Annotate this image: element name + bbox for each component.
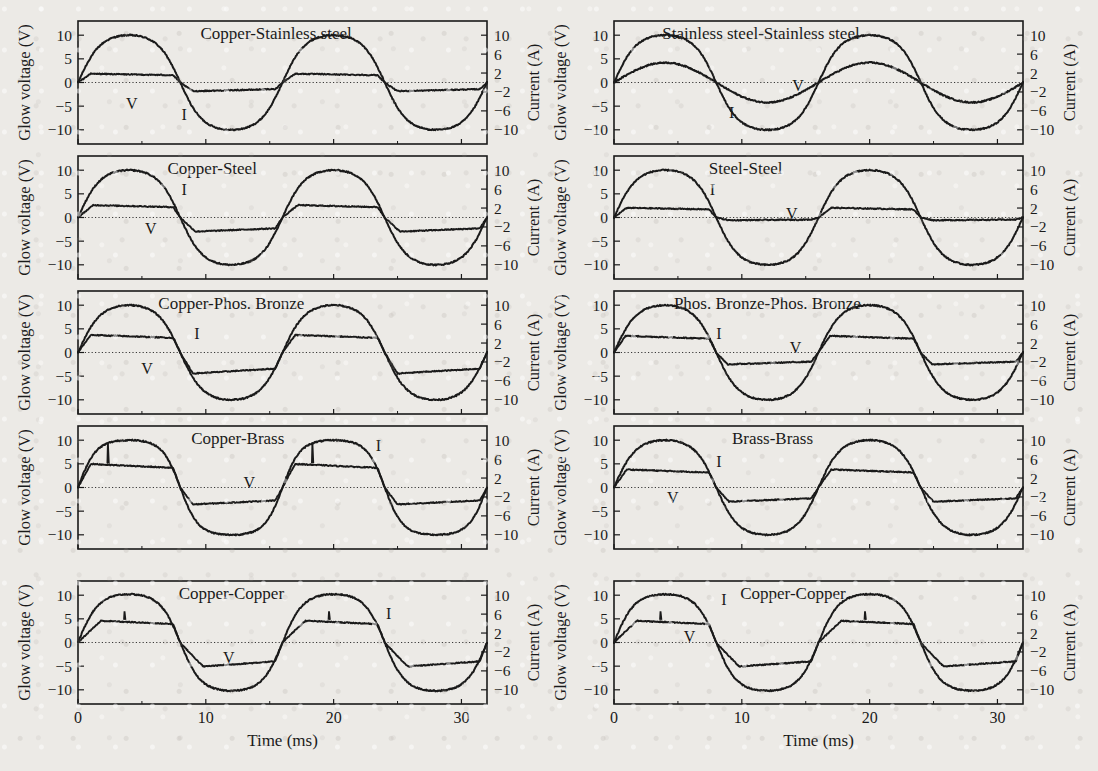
y-tick-label-left: 5 xyxy=(600,185,608,202)
y-tick-label-left: −10 xyxy=(48,681,72,698)
right-axis-title: Current (A) xyxy=(524,179,543,256)
series-label-current: I xyxy=(710,181,715,198)
y-tick-label-right: −6 xyxy=(494,662,511,679)
y-tick-label-left: −10 xyxy=(48,526,72,543)
y-tick-label-right: 10 xyxy=(494,297,510,314)
plot-panel: 1050−5−101062−2−6−10IVSteel-SteelGlow vo… xyxy=(544,144,1093,301)
plot-panel: 1050−5−101062−2−6−10IVStainless steel-St… xyxy=(544,9,1093,166)
y-tick-label-right: −10 xyxy=(1030,391,1054,408)
waveform-voltage xyxy=(78,205,487,232)
y-tick-label-left: −10 xyxy=(584,256,608,273)
right-axis-title: Current (A) xyxy=(1060,314,1079,391)
left-axis-title: Glow voltage (V) xyxy=(15,429,34,545)
y-tick-label-left: −5 xyxy=(592,368,609,385)
plot-panel: 1050−5−101062−2−6−10IVCopper-SteelGlow v… xyxy=(8,144,557,301)
right-axis-title: Current (A) xyxy=(1060,179,1079,256)
y-tick-label-left: −5 xyxy=(592,233,609,250)
y-tick-label-left: −10 xyxy=(48,256,72,273)
panel-title: Brass-Brass xyxy=(732,429,813,448)
panel-title: Copper-Steel xyxy=(168,159,258,178)
y-tick-label-right: 10 xyxy=(1030,587,1046,604)
y-tick-label-left: 5 xyxy=(64,50,72,67)
x-tick-label: 30 xyxy=(989,709,1005,726)
waveform-voltage xyxy=(614,207,1023,220)
transient-spike xyxy=(107,443,108,464)
y-tick-label-right: 10 xyxy=(1030,432,1046,449)
series-label-current: I xyxy=(716,325,721,342)
y-tick-label-left: −5 xyxy=(592,503,609,520)
series-label-current: I xyxy=(721,591,726,608)
y-tick-label-right: 6 xyxy=(494,451,502,468)
x-tick-label: 0 xyxy=(610,709,618,726)
y-tick-label-right: 2 xyxy=(1030,65,1038,82)
plot-panel: 1050−5−101062−2−6−10IVPhos. Bronze-Phos.… xyxy=(544,279,1093,436)
panel-title: Copper-Brass xyxy=(191,429,284,448)
y-tick-label-right: 2 xyxy=(494,470,502,487)
panel-title: Steel-Steel xyxy=(709,159,783,178)
right-axis-title: Current (A) xyxy=(524,314,543,391)
waveform-figure: 1050−5−101062−2−6−10IVCopper-Stainless s… xyxy=(0,0,1098,771)
plot-panel: 1050−5−101062−2−6−10IVCopper-CopperGlow … xyxy=(544,569,1093,750)
x-tick-label: 0 xyxy=(74,709,82,726)
y-tick-label-left: 5 xyxy=(64,455,72,472)
series-label-current: I xyxy=(376,437,381,454)
y-tick-label-right: 6 xyxy=(1030,181,1038,198)
y-tick-label-right: 6 xyxy=(1030,451,1038,468)
y-tick-label-left: −10 xyxy=(584,526,608,543)
y-tick-label-right: 10 xyxy=(494,27,510,44)
x-tick-label: 30 xyxy=(453,709,469,726)
y-tick-label-left: −10 xyxy=(584,121,608,138)
x-tick-label: 10 xyxy=(198,709,214,726)
x-tick-label: 20 xyxy=(326,709,342,726)
y-tick-label-left: −10 xyxy=(584,681,608,698)
y-tick-label-left: −5 xyxy=(56,368,73,385)
series-label-voltage: V xyxy=(223,649,235,666)
y-tick-label-right: −6 xyxy=(1030,662,1047,679)
left-axis-title: Glow voltage (V) xyxy=(15,584,34,700)
series-label-current: I xyxy=(194,325,199,342)
y-tick-label-left: 10 xyxy=(593,27,609,44)
y-tick-label-left: −10 xyxy=(584,391,608,408)
y-tick-label-right: 2 xyxy=(1030,335,1038,352)
left-axis-title: Glow voltage (V) xyxy=(15,159,34,275)
waveform-voltage xyxy=(78,620,487,666)
y-tick-label-left: 0 xyxy=(600,479,608,496)
right-axis-title: Current (A) xyxy=(1060,604,1079,681)
plot-panel: 1050−5−101062−2−6−10IVBrass-BrassGlow vo… xyxy=(544,414,1093,571)
left-axis-title: Glow voltage (V) xyxy=(15,294,34,410)
y-tick-label-right: −6 xyxy=(1030,237,1047,254)
y-tick-label-right: 2 xyxy=(494,65,502,82)
plot-panel: 1050−5−101062−2−6−10IVCopper-CopperGlow … xyxy=(8,569,557,750)
y-tick-label-left: 5 xyxy=(64,610,72,627)
y-tick-label-left: 10 xyxy=(57,27,73,44)
y-tick-label-right: −10 xyxy=(494,526,518,543)
series-label-voltage: V xyxy=(145,220,157,237)
y-tick-label-left: 10 xyxy=(593,162,609,179)
plot-panel: 1050−5−101062−2−6−10IVCopper-BrassGlow v… xyxy=(8,414,557,571)
panel-title: Stainless steel-Stainless steel xyxy=(662,24,860,43)
y-tick-label-left: −10 xyxy=(48,121,72,138)
y-tick-label-right: −10 xyxy=(1030,526,1054,543)
y-tick-label-left: 5 xyxy=(600,320,608,337)
waveform-voltage xyxy=(78,464,487,505)
x-axis-title: Time (ms) xyxy=(247,731,318,750)
y-tick-label-right: −10 xyxy=(1030,681,1054,698)
series-label-current: I xyxy=(181,181,186,198)
transient-spike xyxy=(124,611,125,620)
y-tick-label-right: −6 xyxy=(494,102,511,119)
y-tick-label-left: 5 xyxy=(600,455,608,472)
transient-spike xyxy=(865,611,866,620)
y-tick-label-right: −10 xyxy=(1030,256,1054,273)
series-label-voltage: V xyxy=(126,95,138,112)
y-tick-label-right: 10 xyxy=(1030,162,1046,179)
series-label-voltage: V xyxy=(243,474,255,491)
y-tick-label-right: −6 xyxy=(1030,102,1047,119)
left-axis-title: Glow voltage (V) xyxy=(15,24,34,140)
y-tick-label-right: −10 xyxy=(494,391,518,408)
x-tick-label: 10 xyxy=(734,709,750,726)
series-label-current: I xyxy=(716,453,721,470)
y-tick-label-right: 6 xyxy=(1030,606,1038,623)
right-axis-title: Current (A) xyxy=(1060,44,1079,121)
panel-title: Copper-Copper xyxy=(740,584,846,603)
series-label-current: I xyxy=(386,605,391,622)
